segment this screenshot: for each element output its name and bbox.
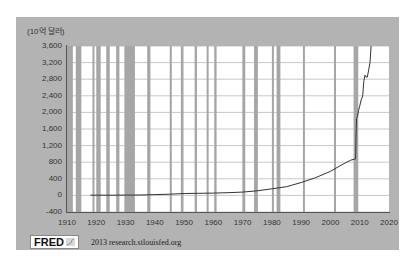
y-tick-label: -400 — [32, 207, 62, 216]
y-tick-label: 0 — [32, 190, 62, 199]
y-axis-line — [66, 45, 67, 213]
line-chart — [67, 46, 389, 212]
recession-bar — [207, 46, 209, 212]
x-tick-label: 2020 — [374, 218, 404, 227]
chart-footer: FRED 2013 research.stlouisfed.org — [30, 235, 181, 249]
recession-bar — [277, 46, 281, 212]
recession-bar — [254, 46, 258, 212]
recession-bar — [195, 46, 197, 212]
y-tick-label: 3,200 — [32, 58, 62, 67]
y-tick-label: 3,600 — [32, 41, 62, 50]
x-tick-label: 1970 — [228, 218, 258, 227]
x-tick-label: 1960 — [198, 218, 228, 227]
x-tick-label: 1990 — [286, 218, 316, 227]
recession-bar — [242, 46, 245, 212]
x-tick-label: 1920 — [81, 218, 111, 227]
recession-bar — [76, 46, 82, 212]
y-tick-label: 2,000 — [32, 107, 62, 116]
recession-bar — [96, 46, 100, 212]
x-axis-line — [66, 212, 390, 213]
source-text[interactable]: 2013 research.stlouisfed.org — [91, 238, 181, 247]
recession-bar — [116, 46, 119, 212]
x-tick-label: 2010 — [345, 218, 375, 227]
x-tick-label: 1910 — [52, 218, 82, 227]
y-tick-label: 2,400 — [32, 91, 62, 100]
y-tick-label: 2,800 — [32, 74, 62, 83]
y-tick-label: 400 — [32, 174, 62, 183]
recession-bar — [124, 46, 135, 212]
y-tick-label: 800 — [32, 157, 62, 166]
plot-area — [67, 46, 389, 212]
recession-bar — [92, 46, 94, 212]
recession-bar — [214, 46, 216, 212]
y-tick-label: 1,200 — [32, 141, 62, 150]
recession-bar — [106, 46, 110, 212]
recession-bar — [147, 46, 150, 212]
recession-bar — [272, 46, 274, 212]
x-tick-label: 2000 — [315, 218, 345, 227]
fred-logo[interactable]: FRED — [30, 235, 79, 249]
y-tick-label: 1,600 — [32, 124, 62, 133]
mini-chart-icon — [66, 238, 75, 246]
y-axis-unit-label: (10억 달러) — [27, 25, 64, 36]
recession-bar — [303, 46, 305, 212]
recession-bar — [334, 46, 336, 212]
recession-bar — [170, 46, 172, 212]
x-tick-label: 1940 — [140, 218, 170, 227]
x-tick-label: 1950 — [169, 218, 199, 227]
fred-logo-text: FRED — [34, 236, 64, 248]
x-tick-label: 1980 — [257, 218, 287, 227]
recession-bar — [181, 46, 184, 212]
recession-bar — [67, 46, 73, 212]
x-tick-label: 1930 — [111, 218, 141, 227]
